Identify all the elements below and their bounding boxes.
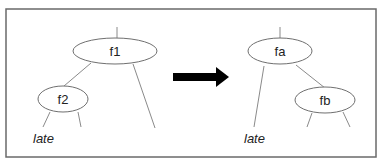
before-tree: f1 f2 late — [33, 27, 157, 146]
node-f1: f1 — [73, 38, 157, 64]
edge-f2-right-subtree — [78, 112, 81, 127]
node-f2-label: f2 — [58, 92, 69, 107]
node-fb: fb — [295, 87, 355, 113]
node-fa-label: fa — [275, 44, 287, 59]
arrow-right-icon — [173, 67, 229, 87]
edge-fa-fb — [296, 65, 325, 88]
node-fa: fa — [248, 38, 312, 64]
leaf-label-late-after: late — [244, 131, 265, 146]
node-f1-label: f1 — [110, 44, 121, 59]
after-tree: fa fb late — [244, 27, 355, 146]
node-f2: f2 — [38, 86, 88, 112]
edge-f1-f2 — [64, 63, 91, 86]
edge-fa-left-subtree — [254, 66, 264, 127]
edge-fb-left-subtree — [307, 113, 312, 127]
node-fb-label: fb — [320, 93, 331, 108]
edge-f1-right-subtree — [133, 64, 155, 128]
edge-fb-right-subtree — [343, 112, 350, 127]
edge-f2-left-subtree — [43, 112, 50, 127]
tree-rotation-diagram: f1 f2 late fa fb late — [0, 0, 381, 164]
leaf-label-late-before: late — [33, 131, 54, 146]
diagram-frame — [6, 9, 376, 157]
